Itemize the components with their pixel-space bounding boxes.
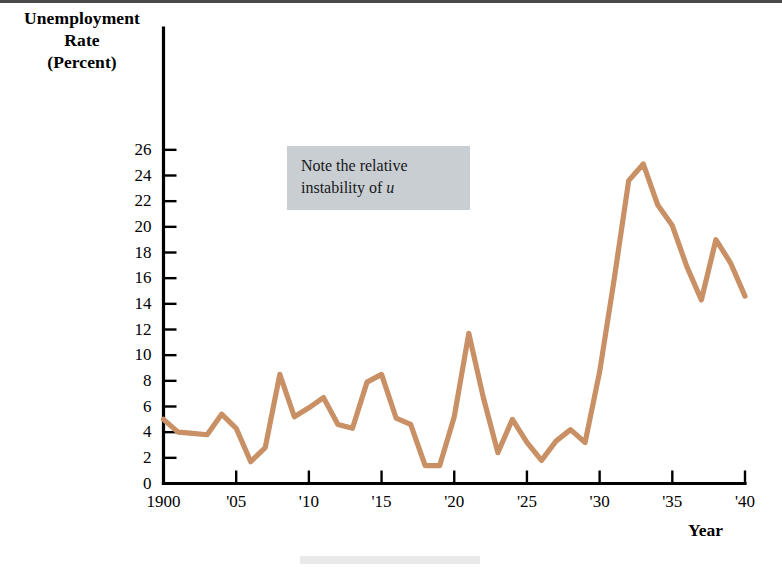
y-tick-label: 10 [112,346,152,363]
y-tick-marks [164,150,177,458]
x-tick-label: '40 [710,493,780,510]
x-tick-label: '30 [565,493,635,510]
x-tick-label: '25 [492,493,562,510]
y-tick-label: 18 [112,244,152,261]
y-tick-label: 14 [112,295,152,312]
y-tick-label: 22 [112,192,152,209]
y-tick-label: 12 [112,321,152,338]
caption-strip-artifact [300,556,480,564]
x-tick-label: '20 [419,493,489,510]
y-tick-label: 2 [112,449,152,466]
annotation-variable-u: u [386,179,394,196]
y-tick-label: 16 [112,269,152,286]
y-tick-label: 24 [112,167,152,184]
x-tick-label: '05 [201,493,271,510]
x-tick-label: 1900 [129,493,199,510]
y-tick-label: 0 [112,475,152,492]
x-tick-label: '10 [274,493,344,510]
annotation-callout: Note the relative instability of u [287,146,470,210]
annotation-line-2: instability of u [301,177,470,199]
annotation-line-1: Note the relative [301,155,470,177]
annotation-line-2-text: instability of [301,179,386,196]
y-tick-label: 26 [112,141,152,158]
x-tick-label: '15 [347,493,417,510]
x-tick-label: '35 [637,493,707,510]
y-tick-label: 8 [112,372,152,389]
y-tick-label: 6 [112,398,152,415]
y-tick-label: 4 [112,423,152,440]
x-tick-marks [236,471,745,484]
y-tick-label: 20 [112,218,152,235]
unemployment-rate-figure: Unemployment Rate (Percent) Year 0246810… [0,0,782,567]
